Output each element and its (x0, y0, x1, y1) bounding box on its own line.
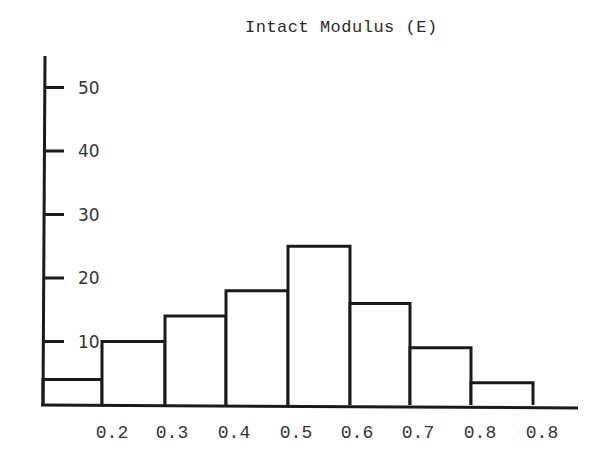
histogram-chart: 10203040500.20.30.40.50.60.70.80.8 (0, 0, 610, 466)
y-axis (43, 56, 45, 405)
y-tick-label: 30 (78, 205, 100, 225)
y-tick-label: 10 (78, 332, 100, 352)
histogram-bar (165, 316, 226, 405)
y-tick-label: 40 (78, 141, 100, 161)
x-tick-label: 0.4 (218, 423, 250, 443)
x-axis (41, 405, 578, 408)
y-tick-label: 20 (78, 268, 100, 288)
x-tick-label: 0.3 (156, 423, 188, 443)
histogram-bar (226, 291, 288, 405)
histogram-bar (471, 383, 533, 405)
x-tick-label: 0.8 (526, 423, 558, 443)
x-tick-label: 0.7 (402, 423, 434, 443)
x-tick-label: 0.6 (341, 423, 373, 443)
x-tick-label: 0.5 (280, 423, 312, 443)
y-tick-label: 50 (78, 78, 100, 98)
histogram-bar (102, 342, 165, 406)
histogram-bar (410, 348, 471, 405)
histogram-bar (288, 246, 350, 405)
x-tick-label: 0.8 (464, 423, 496, 443)
x-tick-label: 0.2 (96, 423, 128, 443)
histogram-bar (43, 380, 102, 405)
histogram-bar (350, 303, 410, 405)
